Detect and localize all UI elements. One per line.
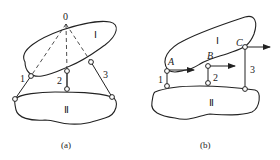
joint (65, 69, 70, 74)
link-3 (91, 62, 112, 97)
link-2-label: 2 (213, 72, 218, 83)
dashed-line-1 (31, 24, 66, 76)
dashed-line-2 (66, 24, 67, 71)
point-c-label: C (236, 37, 243, 48)
joint (89, 60, 94, 65)
body-2-label: Ⅱ (209, 97, 214, 108)
joint (110, 95, 115, 100)
body-1-label: Ⅰ (94, 29, 97, 40)
link-2-label: 2 (57, 75, 62, 86)
figure-b: A B C Ⅰ Ⅱ 1 2 3 (b) (152, 16, 270, 150)
caption-a: (a) (61, 140, 71, 150)
joint-c (243, 45, 248, 50)
point-a-label: A (167, 56, 175, 67)
joint (206, 81, 211, 86)
joint (29, 74, 34, 79)
pole-label: 0 (63, 11, 68, 22)
caption-b: (b) (200, 140, 211, 150)
link-1-label: 1 (20, 73, 25, 84)
joint (165, 84, 170, 89)
point-b-label: B (207, 50, 213, 61)
joint (243, 87, 248, 92)
dashed-line-3 (66, 24, 91, 62)
joint-b (206, 64, 211, 69)
link-3-label: 3 (250, 64, 255, 75)
joint (65, 87, 70, 92)
body-1-label: Ⅰ (216, 35, 219, 46)
link-3-label: 3 (103, 69, 108, 80)
figure-a: 0 Ⅰ Ⅱ 1 2 3 (a) (13, 11, 117, 150)
joint (13, 97, 18, 102)
body-2-label: Ⅱ (64, 104, 69, 115)
joint-a (165, 69, 170, 74)
link-1-label: 1 (158, 74, 163, 85)
diagram-canvas: 0 Ⅰ Ⅱ 1 2 3 (a) A B C Ⅰ Ⅱ 1 2 3 (0, 0, 280, 160)
